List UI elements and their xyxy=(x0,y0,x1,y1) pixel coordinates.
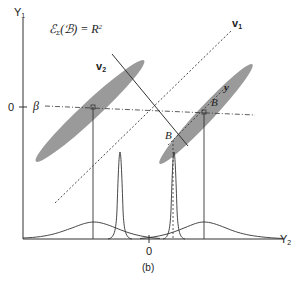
y2-label-sub: 2 xyxy=(287,239,291,246)
left-ellipse xyxy=(30,54,151,168)
eq-arg: (ℬ) = R xyxy=(60,22,98,36)
b-upper-label: B xyxy=(211,97,218,108)
v2-label: v2 xyxy=(96,61,106,73)
v2-line xyxy=(112,54,188,146)
y2-axis-label: Y2 xyxy=(280,234,291,246)
y2-zero-label: 0 xyxy=(146,246,152,257)
right-narrow-peak xyxy=(163,152,185,239)
beta-label: β xyxy=(33,100,39,112)
y-label: y xyxy=(224,82,229,93)
figure-caption: (b) xyxy=(142,263,154,273)
right-wide-gaussian xyxy=(140,222,283,239)
v1-label: v1 xyxy=(232,18,242,30)
y1-zero-label: 0 xyxy=(8,102,14,113)
y1-axis-label: Y1 xyxy=(14,7,25,19)
b-lower-label: B xyxy=(165,130,172,141)
eq-sup: 2 xyxy=(99,23,103,31)
equation-label: ℰΣ(ℬ) = R2 xyxy=(49,23,102,37)
y1-label-sub: 1 xyxy=(21,12,25,19)
v1-sub: 1 xyxy=(238,23,242,30)
v2-sub: 2 xyxy=(102,66,106,73)
diagram-canvas xyxy=(0,0,296,282)
eq-main: ℰ xyxy=(49,22,56,36)
left-wide-gaussian xyxy=(23,222,160,239)
